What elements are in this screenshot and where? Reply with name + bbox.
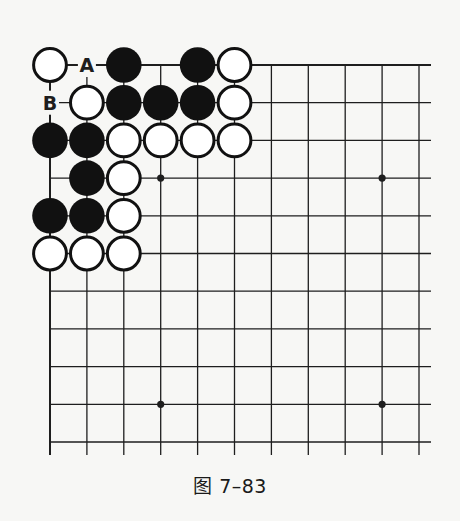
white-stone (34, 49, 67, 82)
black-stone (180, 47, 216, 83)
white-stone (107, 199, 140, 232)
black-stone (180, 85, 216, 121)
black-stone (32, 198, 68, 234)
black-stone (69, 198, 105, 234)
point-label-b: B (43, 92, 57, 114)
black-stone (143, 85, 179, 121)
white-stone (181, 124, 214, 157)
stones (32, 47, 251, 270)
white-stone (107, 162, 140, 195)
star-point (157, 175, 164, 182)
white-stone (71, 237, 104, 270)
black-stone (106, 47, 142, 83)
black-stone (69, 160, 105, 196)
black-stone (69, 123, 105, 159)
black-stone (106, 85, 142, 121)
white-stone (107, 237, 140, 270)
white-stone (107, 124, 140, 157)
white-stone (218, 124, 251, 157)
white-stone (218, 49, 251, 82)
star-point (379, 175, 386, 182)
go-board-diagram: AB (0, 0, 460, 465)
star-point (379, 401, 386, 408)
white-stone (218, 86, 251, 119)
black-stone (32, 123, 68, 159)
white-stone (71, 86, 104, 119)
star-point (157, 401, 164, 408)
point-label-a: A (80, 54, 95, 76)
white-stone (34, 237, 67, 270)
white-stone (144, 124, 177, 157)
figure-caption: 图 7–83 (0, 471, 460, 498)
